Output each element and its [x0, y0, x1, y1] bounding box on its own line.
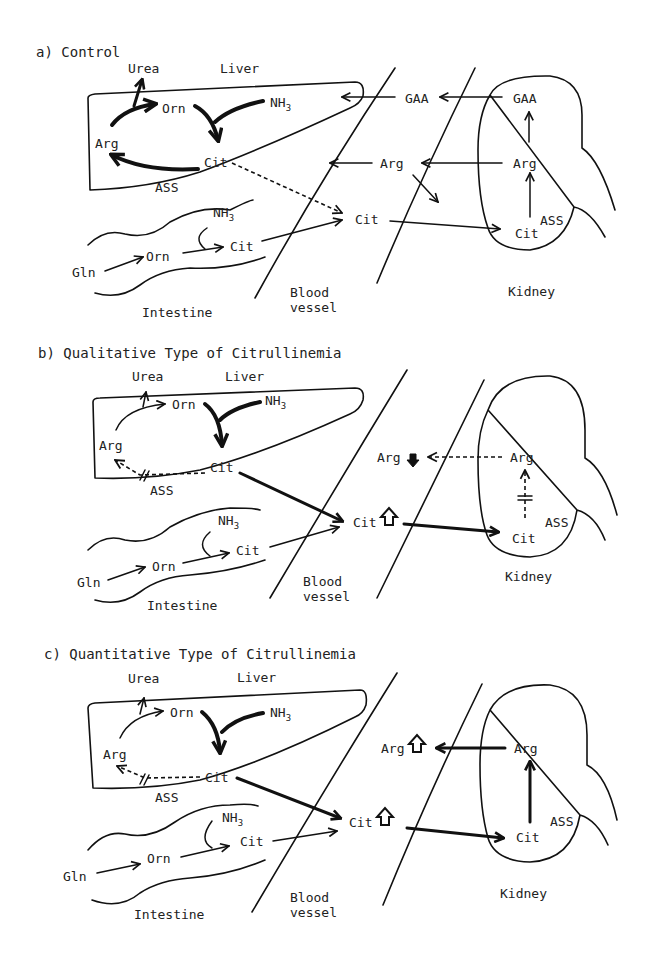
panel-b-qualitative: b) Qualitative Type of Citrullinemia Ure…: [38, 345, 617, 613]
cit-label: Cit: [204, 155, 227, 170]
vessel-label: vessel: [290, 905, 337, 920]
gln-to-orn-arrow: [105, 257, 143, 271]
urea-label: Urea: [128, 61, 159, 76]
arg-to-orn-arrow: [120, 711, 163, 738]
cit-to-kidney-arrow: [390, 221, 500, 229]
arg-label: Arg: [99, 438, 122, 453]
cit-to-arg-arrow: [112, 155, 198, 169]
arg-label: Arg: [103, 747, 126, 762]
panel-title: a) Control: [36, 44, 120, 60]
intestine-orn-label: Orn: [152, 559, 175, 574]
blood-gaa-label: GAA: [405, 91, 429, 106]
intestine-label: Intestine: [134, 907, 205, 922]
vessel-label: vessel: [303, 589, 350, 604]
gln-label: Gln: [77, 575, 100, 590]
increase-arrow-icon: [409, 735, 425, 752]
kidney-cit-label: Cit: [515, 226, 538, 241]
kidney-gaa-label: GAA: [513, 91, 537, 106]
increase-arrow-icon: [377, 808, 393, 825]
blood-arg-label: Arg: [381, 741, 404, 756]
to-urea-arrow: [143, 392, 146, 407]
intestine-lower-outline: [92, 860, 265, 904]
kidney-ass-label: ASS: [545, 515, 568, 530]
kidney-label: Kidney: [505, 569, 552, 584]
intestine-nh3-merge: [203, 532, 211, 556]
gln-to-orn-arrow: [108, 567, 145, 580]
blood-vessel-left-wall: [270, 370, 407, 598]
intestine-cit-to-blood-arrow: [270, 527, 339, 547]
blood-cit-label: Cit: [349, 815, 372, 830]
orn-label: Orn: [172, 397, 195, 412]
intestine-orn-label: Orn: [146, 249, 169, 264]
intestine-cit-to-blood-arrow: [273, 831, 337, 841]
intestine-nh3-label: NH3: [218, 513, 239, 531]
kidney-arg-label: Arg: [513, 156, 536, 171]
kidney-label: Kidney: [500, 886, 547, 901]
orn-to-cit-arrow: [202, 712, 220, 752]
intestine-cit-label: Cit: [240, 834, 263, 849]
orn-to-cit-intestine-arrow: [181, 846, 229, 857]
blood-label: Blood: [303, 574, 342, 589]
intestine-label: Intestine: [147, 598, 218, 613]
blood-label: Blood: [290, 890, 329, 905]
intestine-nh3-merge: [199, 228, 207, 249]
kidney-arg-label: Arg: [510, 450, 533, 465]
intestine-cit-label: Cit: [236, 543, 259, 558]
blood-vessel-right-wall: [383, 684, 482, 905]
orn-label: Orn: [170, 705, 193, 720]
kidney-cit-label: Cit: [512, 531, 535, 546]
increase-arrow-icon: [381, 508, 397, 525]
intestine-nh3-label: NH3: [213, 205, 234, 223]
kidney-ass-label: ASS: [550, 814, 573, 829]
intestine-nh3-merge: [205, 821, 212, 848]
gln-label: Gln: [72, 265, 95, 280]
nh3-label: NH3: [265, 393, 286, 411]
panel-c-quantitative: c) Quantitative Type of Citrullinemia Ur…: [44, 646, 617, 922]
gln-label: Gln: [63, 869, 86, 884]
panel-title: c) Quantitative Type of Citrullinemia: [44, 646, 356, 662]
to-urea-arrow: [134, 80, 142, 106]
cit-to-blood-dashed-arrow: [232, 163, 342, 213]
gln-to-orn-arrow: [97, 864, 140, 873]
vessel-label: vessel: [290, 300, 337, 315]
nh3-label: NH3: [270, 95, 291, 113]
nh3-label: NH3: [270, 705, 291, 723]
intestine-cit-to-blood-arrow: [262, 220, 342, 241]
cit-to-blood-arrow: [237, 778, 340, 818]
cit-to-kidney-arrow: [407, 828, 503, 838]
urea-label: Urea: [132, 369, 163, 384]
orn-label: Orn: [162, 101, 185, 116]
decrease-arrow-icon: [407, 454, 419, 467]
arg-to-orn-arrow: [116, 404, 165, 430]
arg-downstream-arrow: [413, 175, 438, 202]
citrullinemia-diagram: a) Control Urea Liver Orn NH3 Arg Cit AS…: [0, 0, 658, 960]
liver-label: Liver: [237, 670, 276, 685]
liver-label: Liver: [220, 61, 259, 76]
cit-label: Cit: [205, 770, 228, 785]
liver-label: Liver: [225, 369, 264, 384]
blood-arg-label: Arg: [377, 450, 400, 465]
urea-label: Urea: [128, 671, 159, 686]
panel-a-control: a) Control Urea Liver Orn NH3 Arg Cit AS…: [36, 44, 615, 320]
arg-label: Arg: [95, 136, 118, 151]
nh3-merge-arrow: [222, 713, 263, 732]
ass-label: ASS: [155, 790, 178, 805]
kidney-block-mark: [518, 496, 532, 500]
intestine-orn-label: Orn: [147, 851, 170, 866]
nh3-merge-arrow: [215, 101, 263, 122]
ass-label: ASS: [150, 483, 173, 498]
blood-label: Blood: [290, 285, 329, 300]
intestine-nh3-label: NH3: [222, 810, 243, 828]
blood-vessel-right-wall: [377, 380, 484, 598]
kidney-cit-label: Cit: [516, 830, 539, 845]
intestine-lower-outline: [95, 257, 265, 295]
cit-label: Cit: [210, 460, 233, 475]
liver-outline: [88, 82, 363, 190]
nh3-merge-arrow: [220, 402, 260, 420]
kidney-outline: [480, 685, 617, 862]
cit-to-arg-blocked-arrow: [117, 766, 200, 778]
blood-cit-label: Cit: [355, 212, 378, 227]
intestine-lower-outline: [95, 560, 265, 602]
cit-to-blood-arrow: [240, 473, 342, 521]
ass-label: ASS: [155, 180, 178, 195]
